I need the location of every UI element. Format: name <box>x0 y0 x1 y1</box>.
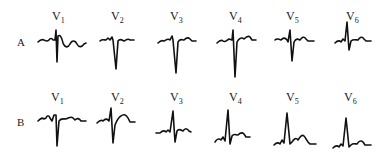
row-label-b: B <box>17 116 24 128</box>
lead-label-b-v3: V3 <box>170 90 183 106</box>
waveform-a-v6 <box>335 22 371 50</box>
lead-label-b-v5: V5 <box>286 90 299 106</box>
waveform-a-v5 <box>275 30 314 61</box>
waveform-b-v3 <box>156 111 191 142</box>
lead-label-a-v2: V2 <box>111 9 124 25</box>
waveform-b-v6 <box>333 118 371 148</box>
lead-label-a-v3: V3 <box>170 9 183 25</box>
waveform-b-v4 <box>215 110 250 144</box>
waveform-a-v3 <box>158 36 196 73</box>
waveform-b-v1 <box>38 115 86 146</box>
lead-label-a-v6: V6 <box>346 9 359 25</box>
waveform-a-v2 <box>100 37 134 69</box>
lead-label-b-v6: V6 <box>344 90 357 106</box>
lead-label-a-v5: V5 <box>286 9 299 25</box>
ecg-diagram: A V1 V2 V3 V4 V5 V6 B V1 V2 V3 V4 V5 V6 <box>0 0 386 164</box>
lead-label-b-v2: V2 <box>111 90 124 106</box>
waveform-b-v5 <box>274 113 316 145</box>
row-b: B V1 V2 V3 V4 V5 V6 <box>17 90 371 148</box>
waveform-a-v1 <box>38 30 86 62</box>
lead-label-a-v4: V4 <box>229 9 242 25</box>
lead-label-b-v4: V4 <box>229 90 242 106</box>
row-a: A V1 V2 V3 V4 V5 V6 <box>17 9 371 77</box>
waveform-b-v2 <box>97 108 135 143</box>
row-label-a: A <box>17 36 25 48</box>
waveform-a-v4 <box>217 30 256 77</box>
lead-label-b-v1: V1 <box>51 90 64 106</box>
lead-label-a-v1: V1 <box>52 9 65 25</box>
